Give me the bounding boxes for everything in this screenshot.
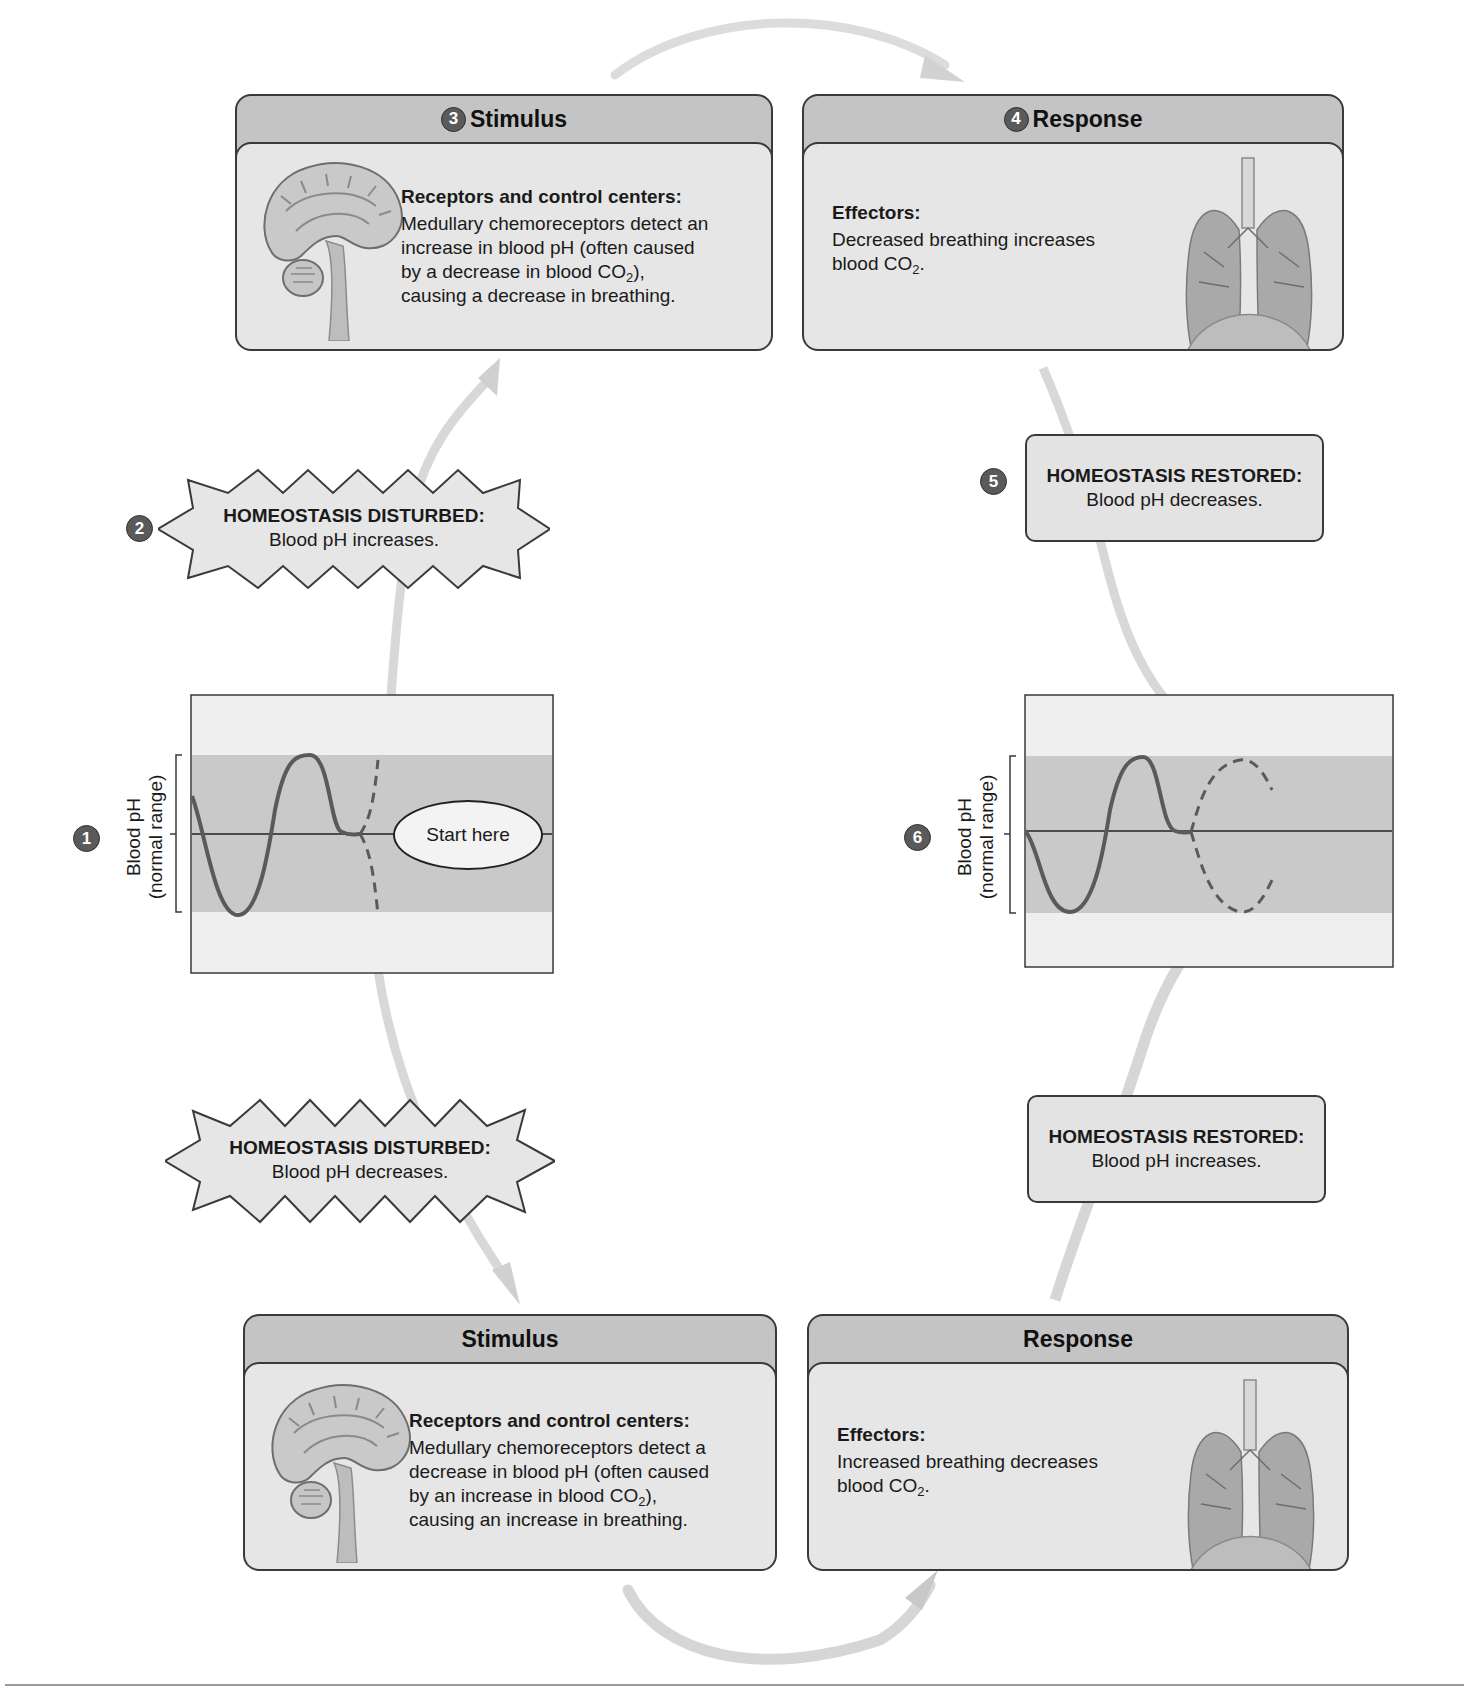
stimulus-text: Medullary chemoreceptors detect an incre… <box>401 212 761 308</box>
step-badge-3: 3 <box>441 107 466 132</box>
right-graph-axis-label: Blood pH (normal range) <box>954 757 998 917</box>
burst-text-top: HOMEOSTASIS DISTURBED: Blood pH increase… <box>158 505 550 551</box>
disturbed-text: Blood pH increases. <box>158 529 550 551</box>
brain-icon <box>259 1378 419 1563</box>
stimulus-bottom-header-label: Stimulus <box>461 1326 558 1353</box>
response-text: Decreased breathing increases blood CO2. <box>832 228 1152 276</box>
restored-bottom-title: HOMEOSTASIS RESTORED: <box>1029 1126 1324 1148</box>
stimulus-bottom-header: Stimulus <box>245 1316 775 1362</box>
restored-box-bottom: HOMEOSTASIS RESTORED: Blood pH increases… <box>1027 1095 1326 1203</box>
restored-text: Blood pH decreases. <box>1027 489 1322 511</box>
response-bottom-header: Response <box>809 1316 1347 1362</box>
restored-box-top: HOMEOSTASIS RESTORED: Blood pH decreases… <box>1025 434 1324 542</box>
response-bottom-title: Effectors: <box>837 1424 1157 1446</box>
start-here-label: Start here <box>393 800 543 870</box>
arrow-stimulus-to-response-top <box>615 23 965 82</box>
stimulus-bottom-text: Medullary chemoreceptors detect a decrea… <box>409 1436 769 1532</box>
step-badge-2: 2 <box>126 515 153 542</box>
stimulus-line-3: by a decrease in blood CO2), <box>401 260 761 284</box>
response-line-2: blood CO2. <box>832 252 1152 276</box>
response-panel-header: 4 Response <box>804 96 1342 142</box>
disturbed-bottom-title: HOMEOSTASIS DISTURBED: <box>165 1137 555 1159</box>
stimulus-line-1: Medullary chemoreceptors detect an <box>401 212 761 236</box>
restored-title: HOMEOSTASIS RESTORED: <box>1027 465 1322 487</box>
response-bottom-header-label: Response <box>1023 1326 1133 1353</box>
response-header-label: Response <box>1033 106 1143 133</box>
stimulus-bottom-title: Receptors and control centers: <box>409 1410 769 1432</box>
stimulus-line-2: increase in blood pH (often caused <box>401 236 761 260</box>
stimulus-bottom-line-4: causing an increase in breathing. <box>409 1508 769 1532</box>
step-badge-1: 1 <box>73 825 100 852</box>
burst-text-bottom: HOMEOSTASIS DISTURBED: Blood pH decrease… <box>165 1137 555 1183</box>
arrow-stimulus-to-response-bottom <box>628 1570 938 1659</box>
step-badge-6: 6 <box>904 824 931 851</box>
lungs-icon <box>1179 152 1319 351</box>
response-line-1: Decreased breathing increases <box>832 228 1152 252</box>
stimulus-bottom-body: Receptors and control centers: Medullary… <box>243 1362 777 1571</box>
response-title: Effectors: <box>832 202 1152 224</box>
stimulus-panel-header: 3 Stimulus <box>237 96 771 142</box>
response-bottom-body: Effectors: Increased breathing decreases… <box>807 1362 1349 1571</box>
response-panel-body: Effectors: Decreased breathing increases… <box>802 142 1344 351</box>
stimulus-panel-bottom: Stimulus Receptors and control centers: … <box>243 1314 777 1571</box>
stimulus-bottom-line-3: by an increase in blood CO2), <box>409 1484 769 1508</box>
stimulus-title: Receptors and control centers: <box>401 186 761 208</box>
brain-icon <box>251 156 411 341</box>
response-bottom-text: Increased breathing decreases blood CO2. <box>837 1450 1157 1498</box>
response-panel-top: 4 Response Effectors: Decreased breathin… <box>802 94 1344 351</box>
bottom-divider <box>5 1684 1464 1686</box>
restored-bottom-text: Blood pH increases. <box>1029 1150 1324 1172</box>
stimulus-bottom-line-1: Medullary chemoreceptors detect a <box>409 1436 769 1460</box>
step-badge-5: 5 <box>980 468 1007 495</box>
stimulus-panel-top: 3 Stimulus Receptors and control centers… <box>235 94 773 351</box>
step-badge-4: 4 <box>1004 107 1029 132</box>
stimulus-panel-body: Receptors and control centers: Medullary… <box>235 142 773 351</box>
response-bottom-line-1: Increased breathing decreases <box>837 1450 1157 1474</box>
disturbed-bottom-text: Blood pH decreases. <box>165 1161 555 1183</box>
response-bottom-line-2: blood CO2. <box>837 1474 1157 1498</box>
response-panel-bottom: Response Effectors: Increased breathing … <box>807 1314 1349 1571</box>
right-graph <box>995 690 1395 972</box>
stimulus-bottom-line-2: decrease in blood pH (often caused <box>409 1460 769 1484</box>
disturbed-title: HOMEOSTASIS DISTURBED: <box>158 505 550 527</box>
stimulus-header-label: Stimulus <box>470 106 567 133</box>
stimulus-line-4: causing a decrease in breathing. <box>401 284 761 308</box>
lungs-icon <box>1181 1374 1321 1571</box>
